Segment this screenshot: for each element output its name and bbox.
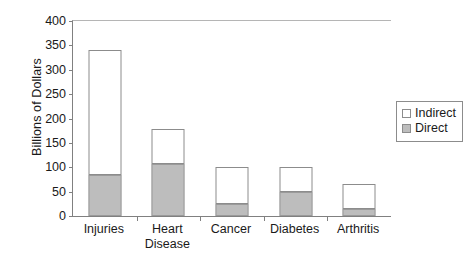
legend-item-direct: Direct <box>402 121 456 136</box>
bar-segment-indirect[interactable] <box>279 167 312 191</box>
bar-segment-indirect[interactable] <box>343 184 376 208</box>
x-axis-category-label: Arthritis <box>318 222 398 237</box>
x-axis-tick-mark <box>264 216 265 221</box>
y-axis-title: Billions of Dollars <box>30 17 44 197</box>
legend-label-direct: Direct <box>415 122 448 135</box>
bar-group <box>200 21 264 216</box>
y-axis-tick-label: 300 <box>45 64 73 77</box>
legend-swatch-indirect-icon <box>402 109 411 118</box>
bar-segment-indirect[interactable] <box>88 50 121 174</box>
bar-segment-direct[interactable] <box>279 192 312 216</box>
x-axis-tick-mark <box>137 216 138 221</box>
stacked-bar[interactable] <box>152 129 185 216</box>
x-axis-tick-mark <box>200 216 201 221</box>
x-axis-category-label-line: Arthritis <box>318 222 398 237</box>
legend-swatch-direct-icon <box>402 124 411 133</box>
bar-group <box>327 21 391 216</box>
stacked-bar[interactable] <box>343 184 376 216</box>
bar-group <box>264 21 328 216</box>
y-axis-tick-label: 350 <box>45 39 73 52</box>
stacked-bar[interactable] <box>215 167 248 216</box>
bar-group <box>137 21 201 216</box>
plot-area: 050100150200250300350400 <box>72 20 391 217</box>
y-axis-tick-label: 200 <box>45 112 73 125</box>
y-axis-tick-label: 50 <box>52 185 73 198</box>
legend-label-indirect: Indirect <box>415 107 456 120</box>
y-axis-tick-label: 0 <box>59 210 73 223</box>
legend-item-indirect: Indirect <box>402 106 456 121</box>
stacked-bar[interactable] <box>88 50 121 216</box>
bar-segment-direct[interactable] <box>343 209 376 216</box>
bar-group <box>73 21 137 216</box>
bar-segment-direct[interactable] <box>88 175 121 216</box>
bar-segment-indirect[interactable] <box>215 167 248 204</box>
chart-legend: Indirect Direct <box>396 101 463 142</box>
x-axis-category-label-line: Disease <box>127 237 207 252</box>
y-axis-tick-label: 150 <box>45 137 73 150</box>
stacked-bar[interactable] <box>279 167 312 216</box>
y-axis-tick-label: 400 <box>45 15 73 28</box>
y-axis-tick-label: 250 <box>45 88 73 101</box>
bar-segment-indirect[interactable] <box>152 129 185 164</box>
bar-segment-direct[interactable] <box>215 204 248 216</box>
y-axis-tick-label: 100 <box>45 161 73 174</box>
chart-figure: Billions of Dollars 05010015020025030035… <box>0 0 468 269</box>
x-axis-tick-mark <box>327 216 328 221</box>
bar-segment-direct[interactable] <box>152 164 185 216</box>
